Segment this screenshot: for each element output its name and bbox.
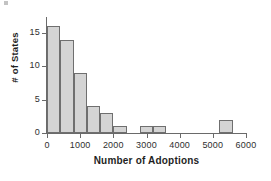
y-tick-label: 0 xyxy=(14,128,40,137)
histogram-bar xyxy=(87,106,100,133)
plot-area xyxy=(47,17,246,133)
x-tick xyxy=(47,134,48,138)
histogram-bar xyxy=(113,126,126,133)
y-axis-label: # of States xyxy=(9,28,20,88)
x-tick xyxy=(246,134,247,138)
histogram-bar xyxy=(60,40,73,133)
histogram-bar xyxy=(100,113,113,133)
x-tick xyxy=(113,134,114,138)
y-tick-label: 5 xyxy=(14,95,40,104)
x-tick xyxy=(180,134,181,138)
x-tick-label: 6000 xyxy=(226,140,266,150)
histogram-figure: 051015 0100020003000400050006000 Number … xyxy=(0,0,271,181)
x-axis-line xyxy=(46,133,247,134)
x-axis-label: Number of Adoptions xyxy=(47,155,246,166)
histogram-bar xyxy=(140,126,153,133)
histogram-bar xyxy=(74,73,87,133)
x-tick xyxy=(147,134,148,138)
histogram-bar xyxy=(47,26,60,133)
histogram-bar xyxy=(219,120,232,133)
x-tick xyxy=(80,134,81,138)
scan-artifact-speck xyxy=(4,1,8,5)
histogram-bar xyxy=(153,126,166,133)
x-tick xyxy=(213,134,214,138)
